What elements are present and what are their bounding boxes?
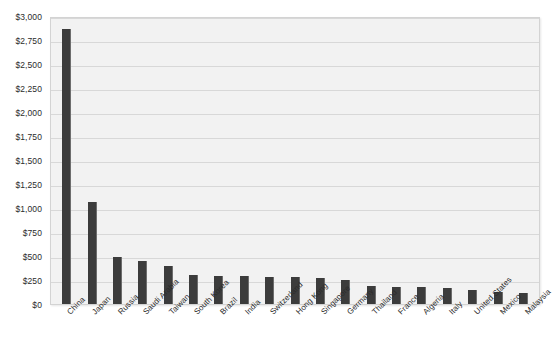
x-axis-slot: Saudi Arabia: [129, 306, 154, 362]
bar-slot: [409, 18, 434, 304]
bar[interactable]: [265, 277, 274, 304]
x-axis-slot: Singapore: [308, 306, 333, 362]
y-axis-tick-label: $2,750: [15, 36, 42, 46]
bar-slot: [130, 18, 155, 304]
bar-slot: [54, 18, 79, 304]
bar-slot: [79, 18, 104, 304]
x-axis-slot: Algeria: [410, 306, 435, 362]
bar-slot: [485, 18, 510, 304]
x-axis-slot: Brazil: [206, 306, 231, 362]
x-axis-slot: Taiwan: [155, 306, 180, 362]
bar-slot: [359, 18, 384, 304]
y-axis-tick-label: $0: [32, 300, 42, 310]
bar-slot: [333, 18, 358, 304]
y-axis-tick-label: $500: [23, 252, 42, 262]
bar[interactable]: [62, 29, 71, 304]
bar-slot: [156, 18, 181, 304]
x-axis-slot: Hong Kong: [282, 306, 307, 362]
x-axis-slot: France: [384, 306, 409, 362]
y-axis-tick-label: $3,000: [15, 12, 42, 22]
x-axis-slot: Japan: [78, 306, 103, 362]
y-axis-tick-label: $2,250: [15, 84, 42, 94]
plot-area: [50, 17, 540, 305]
bar-slot: [105, 18, 130, 304]
y-axis-tick-label: $1,500: [15, 156, 42, 166]
bar-slot: [257, 18, 282, 304]
bar-slot: [181, 18, 206, 304]
x-axis-slot: United States: [461, 306, 486, 362]
y-axis: $0$250$500$750$1,000$1,250$1,500$1,750$2…: [0, 10, 46, 306]
bar[interactable]: [468, 290, 477, 304]
y-axis-tick-label: $1,250: [15, 180, 42, 190]
x-axis-slot: South Korea: [180, 306, 205, 362]
bar-slot: [232, 18, 257, 304]
y-axis-tick-label: $250: [23, 276, 42, 286]
y-axis-tick-label: $2,500: [15, 60, 42, 70]
bar-slot: [511, 18, 536, 304]
y-axis-tick-label: $2,000: [15, 108, 42, 118]
bar[interactable]: [240, 276, 249, 304]
bar-slot: [460, 18, 485, 304]
bar-slot: [206, 18, 231, 304]
bar[interactable]: [88, 202, 97, 304]
x-axis-slot: Germany: [333, 306, 358, 362]
bar-slot: [435, 18, 460, 304]
x-axis: ChinaJapanRussiaSaudi ArabiaTaiwanSouth …: [50, 306, 540, 362]
x-axis-slot: China: [53, 306, 78, 362]
x-axis-slot: Malaysia: [511, 306, 536, 362]
y-axis-tick-label: $1,750: [15, 132, 42, 142]
x-axis-slot: India: [231, 306, 256, 362]
y-axis-tick-label: $1,000: [15, 204, 42, 214]
x-axis-slot: Russia: [104, 306, 129, 362]
bar-slot: [308, 18, 333, 304]
bar-slot: [384, 18, 409, 304]
x-axis-slot: Thailand: [359, 306, 384, 362]
bars-container: [51, 18, 539, 304]
x-axis-slot: Mexico: [486, 306, 511, 362]
y-axis-tick-label: $750: [23, 228, 42, 238]
x-axis-slot: Italy: [435, 306, 460, 362]
bar[interactable]: [113, 257, 122, 304]
x-axis-slot: Switzerland: [257, 306, 282, 362]
bar-slot: [282, 18, 307, 304]
